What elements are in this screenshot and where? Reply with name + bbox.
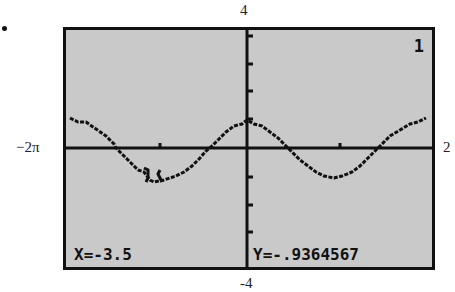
graph-plot <box>66 30 432 267</box>
graph-number: 1 <box>414 36 424 56</box>
trace-y-value: Y=-.9364567 <box>253 245 359 264</box>
trace-x-value: X=-3.5 <box>74 245 132 264</box>
calculator-screen: 1 X=-3.5 Y=-.9364567 <box>63 27 435 270</box>
xmax-label: 2 <box>443 139 451 156</box>
xmin-label: −2π <box>16 139 40 156</box>
ymax-label: 4 <box>240 2 248 19</box>
bullet-marker <box>2 26 7 31</box>
ymin-label: -4 <box>240 275 253 292</box>
